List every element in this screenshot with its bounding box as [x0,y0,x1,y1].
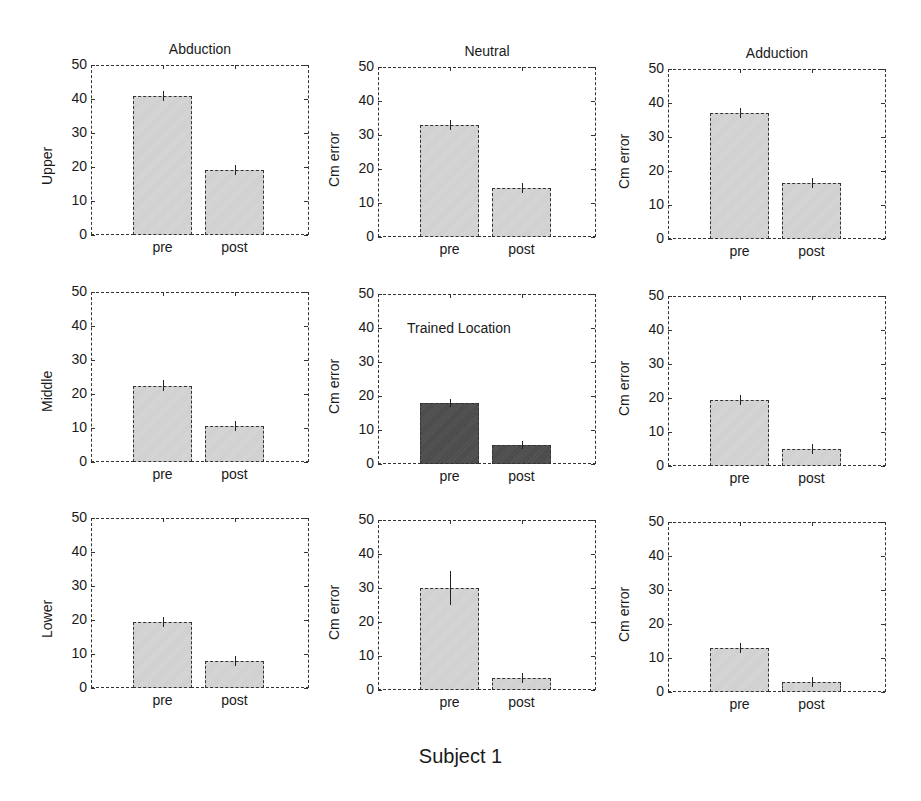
x-tick-label: pre [133,466,193,482]
y-tick-mark [378,554,382,555]
plot-area [91,518,309,688]
y-tick-mark-right [304,462,308,463]
y-axis-label: Upper [39,147,55,185]
bar-pre [133,622,192,688]
y-tick-label: 10 [634,196,664,212]
y-tick-mark-right [881,522,885,523]
y-tick-mark [378,135,382,136]
y-tick-mark-right [591,237,595,238]
y-tick-mark [668,432,672,433]
panel-title: Abduction [90,41,310,57]
y-tick-mark-right [591,328,595,329]
y-tick-mark [91,133,95,134]
x-tick-mark [163,518,164,522]
y-tick-mark [378,203,382,204]
y-tick-label: 30 [57,124,87,140]
y-tick-mark [378,101,382,102]
error-bar [163,380,164,390]
y-tick-label: 20 [344,160,374,176]
y-tick-mark-right [304,620,308,621]
y-tick-label: 0 [57,226,87,242]
y-tick-label: 10 [634,649,664,665]
y-tick-mark-right [304,292,308,293]
y-tick-mark-right [591,656,595,657]
y-tick-mark [91,518,95,519]
y-tick-label: 0 [57,679,87,695]
y-tick-label: 30 [344,126,374,142]
y-tick-mark-right [591,396,595,397]
y-tick-label: 40 [344,545,374,561]
x-tick-mark [163,65,164,69]
x-tick-label: pre [133,692,193,708]
y-tick-mark [378,169,382,170]
y-tick-label: 10 [57,419,87,435]
y-tick-label: 40 [634,94,664,110]
y-tick-label: 30 [634,581,664,597]
x-tick-mark [450,67,451,71]
x-tick-mark [235,518,236,522]
y-tick-mark [91,428,95,429]
y-tick-label: 30 [57,577,87,593]
y-tick-mark [91,326,95,327]
y-tick-label: 20 [57,158,87,174]
y-tick-mark [668,522,672,523]
bar-pre [420,125,479,237]
y-tick-label: 30 [634,128,664,144]
plot-area [668,522,886,692]
y-tick-mark-right [304,428,308,429]
y-tick-label: 10 [344,194,374,210]
y-tick-mark [668,103,672,104]
x-tick-label: pre [133,239,193,255]
y-tick-mark-right [304,394,308,395]
x-tick-mark [450,294,451,298]
y-tick-mark [668,137,672,138]
panel-title: Adduction [667,45,887,61]
y-tick-mark-right [881,171,885,172]
x-tick-mark [812,522,813,526]
y-tick-label: 50 [344,58,374,74]
x-tick-label: post [205,239,265,255]
y-tick-mark-right [881,69,885,70]
error-bar [235,421,236,431]
y-tick-mark [668,590,672,591]
y-tick-mark [91,292,95,293]
bar-pre [133,96,192,235]
x-tick-mark [235,65,236,69]
error-bar [812,444,813,454]
y-tick-mark [91,462,95,463]
y-tick-mark-right [304,133,308,134]
y-tick-label: 50 [634,287,664,303]
y-tick-mark [378,690,382,691]
y-tick-mark [91,201,95,202]
y-tick-mark-right [591,169,595,170]
x-tick-mark [235,292,236,296]
y-tick-label: 40 [57,90,87,106]
y-tick-mark-right [881,330,885,331]
x-tick-label: post [492,694,552,710]
y-tick-label: 10 [57,645,87,661]
x-tick-mark [522,67,523,71]
error-bar [450,120,451,130]
y-tick-mark [668,364,672,365]
y-tick-mark-right [881,556,885,557]
y-tick-mark-right [881,398,885,399]
y-tick-mark [91,654,95,655]
y-tick-mark-right [881,590,885,591]
y-tick-label: 0 [634,683,664,699]
plot-area [378,67,596,237]
y-tick-label: 40 [634,547,664,563]
y-tick-mark [668,692,672,693]
y-tick-mark [378,520,382,521]
y-tick-mark-right [591,520,595,521]
y-tick-label: 0 [344,455,374,471]
y-tick-mark [668,624,672,625]
y-tick-mark [668,239,672,240]
y-tick-label: 40 [57,543,87,559]
plot-area [668,69,886,239]
y-tick-mark [91,360,95,361]
y-tick-mark-right [304,552,308,553]
y-tick-label: 0 [57,453,87,469]
x-tick-mark [812,69,813,73]
y-axis-label: Cm error [616,361,632,416]
y-tick-mark-right [591,690,595,691]
